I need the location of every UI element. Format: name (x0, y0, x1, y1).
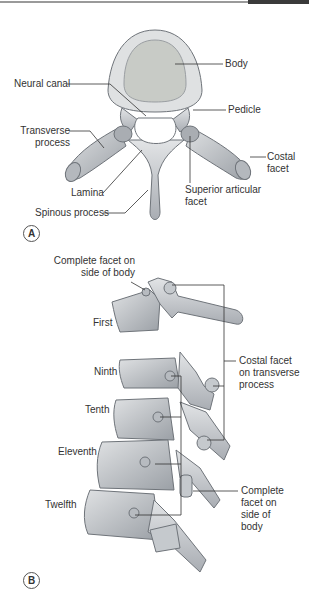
panel-label-b: B (23, 572, 40, 589)
label-pedicle: Pedicle (228, 104, 261, 116)
label-twelfth: Twelfth (45, 499, 77, 511)
label-first: First (93, 317, 112, 329)
label-lamina: Lamina (71, 187, 104, 199)
label-costal-facet: Costal facet (267, 151, 307, 175)
first-vertebra (112, 290, 160, 332)
label-ninth: Ninth (94, 366, 117, 378)
label-tenth: Tenth (85, 404, 109, 416)
label-neural-canal: Neural canal (14, 78, 70, 90)
label-costal-facet-transverse: Costal facet on transverse process (239, 355, 305, 391)
label-complete-facet-top: Complete facet on side of body (43, 255, 135, 279)
label-complete-facet-bottom: Complete facet on side of body (241, 485, 286, 533)
panel-label-a: A (23, 225, 40, 242)
label-body: Body (225, 58, 248, 70)
label-spinous-process: Spinous process (35, 207, 109, 219)
label-superior-articular-facet: Superior articular facet (185, 184, 263, 208)
label-transverse-process: Transverse process (20, 125, 70, 149)
label-eleventh: Eleventh (58, 446, 97, 458)
